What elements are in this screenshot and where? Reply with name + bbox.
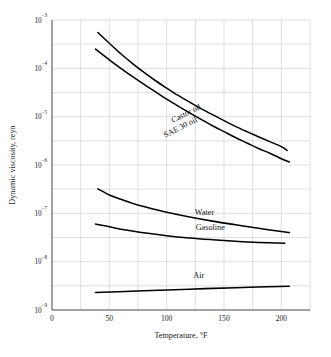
curve-gasoline (96, 224, 285, 243)
horizontal-gridlines (52, 20, 310, 310)
data-curves (96, 33, 290, 293)
curve-water (98, 189, 289, 233)
y-tick-label: 10−4 (34, 60, 47, 73)
curve-label-water: Water (195, 208, 215, 217)
y-tick-label: 10−3 (34, 12, 47, 25)
curve-label-air: Air (193, 271, 204, 280)
y-tick-label: 10−8 (34, 254, 47, 267)
y-axis-tick-labels: 10−310−410−510−610−710−810−9 (34, 12, 47, 315)
curve-castor-oil (98, 33, 287, 151)
x-tick-label: 50 (106, 314, 114, 323)
y-axis-title: Dynamic viscosity, reyn (8, 125, 17, 204)
curve-label-gasoline: Gasoline (196, 223, 225, 232)
x-tick-label: 200 (276, 314, 288, 323)
y-tick-label: 10−9 (34, 302, 47, 315)
curve-air (96, 286, 290, 292)
x-tick-label: 150 (218, 314, 230, 323)
x-axis-title: Temperature, °F (154, 331, 208, 340)
grid-layer (52, 20, 310, 310)
curve-labels: Castor oilSAE 30 oilWaterGasolineAir (162, 102, 225, 280)
x-tick-label: 100 (161, 314, 173, 323)
viscosity-chart: 10−310−410−510−610−710−810−9 05010015020… (0, 0, 331, 357)
chart-svg: 10−310−410−510−610−710−810−9 05010015020… (0, 0, 331, 357)
x-axis-tick-labels: 050100150200 (50, 314, 287, 323)
x-tick-label: 0 (50, 314, 54, 323)
y-tick-label: 10−6 (34, 157, 47, 170)
y-tick-label: 10−5 (34, 109, 47, 122)
y-tick-label: 10−7 (34, 205, 47, 218)
